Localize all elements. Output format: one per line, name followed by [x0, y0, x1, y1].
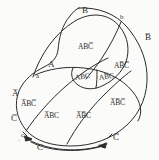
label-C-bar-left: C̅ — [11, 114, 17, 123]
centre-divider — [96, 70, 97, 88]
region-label-ABbarCbar: AB̅C̅ — [114, 62, 129, 70]
region-label-AbarBCbar: A̅BC̅ — [21, 100, 36, 108]
label-A-bar: A̅ — [12, 89, 18, 98]
region-label-ABC: ABC — [74, 72, 90, 81]
label-c-left: c — [21, 132, 24, 139]
region-label-AbarBbarCbar: A̅B̅C̅ — [110, 99, 125, 107]
label-C-bar-right: C̅ — [113, 133, 119, 142]
region-label-ABCbar: ABC̅ — [78, 43, 93, 51]
label-C-bottom: C — [37, 143, 43, 152]
label-b-right: b — [120, 14, 123, 21]
arrow-left-head — [25, 136, 32, 141]
label-a-lower: a — [36, 73, 39, 80]
label-B-bar: B̅ — [145, 33, 151, 42]
label-B-top: B — [82, 6, 88, 15]
region-label-AbarBbarC: A̅B̅C — [76, 112, 91, 120]
region-label-AbarBC: A̅BC — [44, 112, 59, 120]
label-c-right: c — [98, 142, 101, 149]
region-label-ABbarC: AB̅C — [98, 72, 114, 81]
set-C-line-1 — [26, 58, 108, 131]
label-A-upper: A — [48, 60, 54, 69]
diagram-canvas: B b B̅ A a A̅ C̅ c C c C̅ ABC̅ AB̅C̅ ABC… — [0, 0, 159, 160]
